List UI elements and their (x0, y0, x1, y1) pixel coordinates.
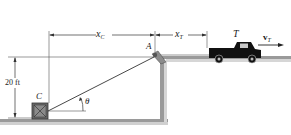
upper-ledge (160, 56, 291, 122)
xc-label: xC (96, 29, 104, 40)
pulley-label: A (146, 42, 152, 51)
velocity-label: vT (263, 33, 271, 43)
height-dimension (14, 57, 17, 118)
velocity-arrow (258, 43, 284, 47)
xt-label: xT (175, 29, 183, 40)
crate-c (32, 103, 48, 119)
rope (48, 57, 154, 111)
pulley-diagram: xC xT A T vT C 20 ft θ (0, 0, 291, 135)
diagram-svg (0, 0, 291, 135)
crate-label: C (36, 92, 42, 101)
truck-label: T (233, 29, 239, 39)
height-label: 20 ft (5, 79, 20, 87)
angle-label: θ (85, 97, 89, 106)
lower-ground (0, 119, 168, 125)
